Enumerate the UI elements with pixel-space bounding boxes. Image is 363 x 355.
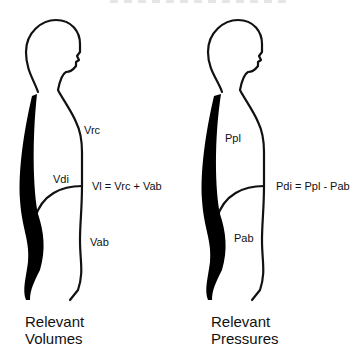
label-vab: Vab: [90, 236, 109, 248]
label-pab: Pab: [234, 232, 254, 244]
label-vdi: Vdi: [53, 173, 69, 185]
caption-pressures-line2: Pressures: [211, 330, 279, 347]
caption-volumes-line2: Volumes: [25, 330, 84, 347]
label-ppl: Ppl: [225, 132, 241, 144]
right-diaphragm-line: [217, 186, 264, 218]
left-diaphragm-line: [35, 186, 82, 218]
left-spine: [20, 94, 44, 300]
equation-volumes: Vl = Vrc + Vab: [92, 180, 162, 192]
caption-pressures: Relevant Pressures: [211, 313, 279, 347]
equation-pressures: Pdi = Ppl - Pab: [276, 180, 350, 192]
right-spine: [202, 94, 226, 300]
caption-volumes: Relevant Volumes: [25, 313, 84, 347]
caption-pressures-line1: Relevant: [211, 313, 279, 330]
label-vrc: Vrc: [84, 124, 100, 136]
caption-volumes-line1: Relevant: [25, 313, 84, 330]
